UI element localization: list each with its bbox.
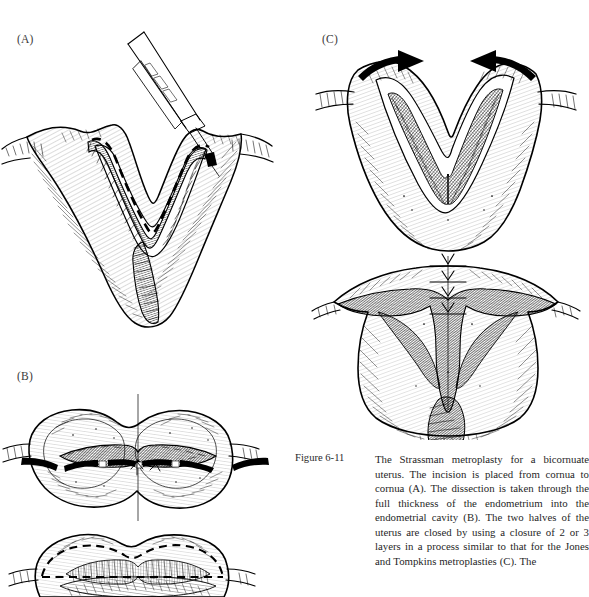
uterus-lower-view-b [9,535,255,597]
uterus-upper-view-b [3,394,269,521]
uterus-open-view-c [316,50,576,251]
figure-page: (A) [0,0,589,597]
figure-caption-body: The Strassman metroplasty for a bicornua… [375,452,589,568]
incision-edge-right [232,458,269,471]
illustration-panel-c [300,28,589,440]
illustration-panel-b [0,378,290,597]
illustration-panel-a [0,30,290,350]
uterus-closed-view-c [312,254,580,440]
figure-caption-label: Figure 6-11 [295,452,371,463]
